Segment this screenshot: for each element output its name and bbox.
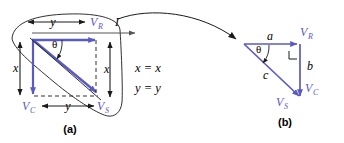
label-side-b: b [307,59,313,73]
caption-panel-a: (a) [63,123,77,135]
label-vs-b-subscript: S [284,102,288,111]
label-top-y: y [49,15,56,29]
label-theta-b: θ [256,43,261,55]
label-bottom-y: y [64,99,71,113]
label-vc-b-subscript: C [313,88,319,97]
label-vr-a-subscript: R [97,22,103,31]
vector-vs-a [33,40,96,92]
caption-panel-b: (b) [278,116,292,128]
angle-theta-b [263,45,269,63]
label-left-x: x [12,61,19,75]
identity-equations: x = x y = y [133,61,161,95]
label-vc-a-subscript: C [30,106,36,115]
panel-a: y V R I [12,15,135,135]
label-vs-a-subscript: S [105,106,109,115]
identity-x: x = x [134,61,161,75]
panel-b: a V R b V C c V S [244,25,319,128]
angle-theta-a [57,40,62,59]
label-right-x: x [103,62,110,76]
figure-svg: y V R I [0,0,344,143]
right-angle-icon [289,51,297,59]
label-theta-a: θ [52,38,57,50]
label-vr-b-subscript: R [307,32,313,41]
callout-arrow [118,13,236,39]
label-side-c: c [263,68,269,82]
identity-y: y = y [133,81,161,95]
vector-vs-b [244,44,299,96]
label-side-a: a [267,29,273,43]
figure-container: y V R I [0,0,344,143]
